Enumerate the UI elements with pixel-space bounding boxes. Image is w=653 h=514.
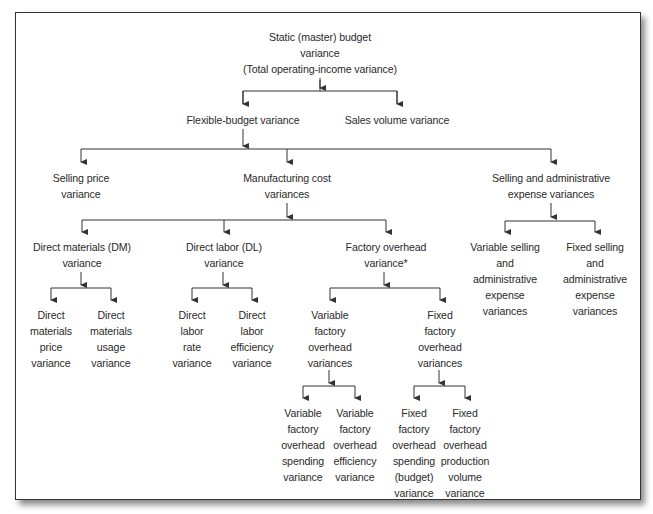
node-line: factory	[333, 421, 376, 437]
node-line: Direct materials (DM)	[33, 239, 131, 255]
node-selling-price-variance: Selling price variance	[53, 170, 109, 202]
node-line: Fixed	[418, 307, 462, 323]
node-fixed-selling-admin-variances: Fixed selling and administrative expense…	[563, 239, 627, 319]
node-line: materials	[30, 323, 72, 339]
node-line: administrative	[470, 271, 539, 287]
node-line: Direct	[30, 307, 72, 323]
node-line: Flexible-budget variance	[186, 112, 299, 128]
node-line: and	[563, 255, 627, 271]
node-line: rate	[172, 339, 211, 355]
node-line: factory	[308, 323, 352, 339]
node-line: overhead	[392, 437, 435, 453]
node-line: Fixed	[441, 405, 489, 421]
node-line: variances	[563, 303, 627, 319]
node-line: variances	[308, 355, 352, 371]
node-line: Direct labor (DL)	[186, 239, 262, 255]
node-line: expense	[470, 287, 539, 303]
node-ffoh-spending-budget-variance: Fixed factory overhead spending (budget)…	[392, 405, 435, 501]
node-vfoh-efficiency-variance: Variable factory overhead efficiency var…	[333, 405, 376, 485]
node-line: Manufacturing cost	[243, 170, 331, 186]
node-line: Variable	[308, 307, 352, 323]
node-line: variances	[470, 303, 539, 319]
node-line: materials	[90, 323, 132, 339]
node-line: expense	[563, 287, 627, 303]
node-line: Variable	[281, 405, 324, 421]
node-line: variance	[172, 355, 211, 371]
node-line: variance	[33, 255, 131, 271]
node-sales-volume-variance: Sales volume variance	[345, 112, 449, 128]
node-factory-overhead-variance: Factory overhead variance*	[346, 239, 427, 271]
node-line: variance	[392, 485, 435, 501]
node-line: (budget)	[392, 469, 435, 485]
node-line: Selling price	[53, 170, 109, 186]
node-line: price	[30, 339, 72, 355]
node-line: Fixed selling	[563, 239, 627, 255]
node-line: variances	[418, 355, 462, 371]
node-line: variance	[90, 355, 132, 371]
node-line: variance	[281, 469, 324, 485]
node-vfoh-spending-variance: Variable factory overhead spending varia…	[281, 405, 324, 485]
node-line: variance	[333, 469, 376, 485]
node-line: Static (master) budget	[243, 29, 397, 45]
node-direct-labor-variance: Direct labor (DL) variance	[186, 239, 262, 271]
node-dm-usage-variance: Direct materials usage variance	[90, 307, 132, 371]
node-line: variance	[53, 186, 109, 202]
node-line: Direct	[231, 307, 274, 323]
node-selling-admin-expense-variances: Selling and administrative expense varia…	[492, 170, 610, 202]
node-line: Fixed	[392, 405, 435, 421]
node-line: Factory overhead	[346, 239, 427, 255]
node-line: Sales volume variance	[345, 112, 449, 128]
node-line: variance	[30, 355, 72, 371]
node-line: variance	[441, 485, 489, 501]
node-manufacturing-cost-variances: Manufacturing cost variances	[243, 170, 331, 202]
node-line: expense variances	[492, 186, 610, 202]
node-line: and	[470, 255, 539, 271]
node-direct-materials-variance: Direct materials (DM) variance	[33, 239, 131, 271]
node-line: production	[441, 453, 489, 469]
node-line: spending	[281, 453, 324, 469]
node-fixed-factory-overhead-variances: Fixed factory overhead variances	[418, 307, 462, 371]
node-line: variances	[243, 186, 331, 202]
node-line: overhead	[281, 437, 324, 453]
node-line: variance	[186, 255, 262, 271]
node-line: overhead	[308, 339, 352, 355]
node-line: spending	[392, 453, 435, 469]
node-line: variance	[243, 45, 397, 61]
node-line: Variable selling	[470, 239, 539, 255]
node-line: variance*	[346, 255, 427, 271]
node-static-budget-variance: Static (master) budget variance (Total o…	[243, 29, 397, 77]
node-line: Direct	[172, 307, 211, 323]
node-line: volume	[441, 469, 489, 485]
node-dl-rate-variance: Direct labor rate variance	[172, 307, 211, 371]
node-line: factory	[392, 421, 435, 437]
node-line: Direct	[90, 307, 132, 323]
node-line: variance	[231, 355, 274, 371]
node-line: labor	[172, 323, 211, 339]
node-line: factory	[441, 421, 489, 437]
node-line: overhead	[441, 437, 489, 453]
node-line: efficiency	[333, 453, 376, 469]
node-line: (Total operating-income variance)	[243, 61, 397, 77]
node-line: factory	[281, 421, 324, 437]
node-line: administrative	[563, 271, 627, 287]
node-line: Selling and administrative	[492, 170, 610, 186]
node-line: labor	[231, 323, 274, 339]
node-variable-selling-admin-variances: Variable selling and administrative expe…	[470, 239, 539, 319]
node-line: efficiency	[231, 339, 274, 355]
node-dl-efficiency-variance: Direct labor efficiency variance	[231, 307, 274, 371]
node-line: Variable	[333, 405, 376, 421]
node-line: overhead	[418, 339, 462, 355]
node-ffoh-production-volume-variance: Fixed factory overhead production volume…	[441, 405, 489, 501]
node-flexible-budget-variance: Flexible-budget variance	[186, 112, 299, 128]
node-line: usage	[90, 339, 132, 355]
node-line: overhead	[333, 437, 376, 453]
node-line: factory	[418, 323, 462, 339]
node-dm-price-variance: Direct materials price variance	[30, 307, 72, 371]
node-variable-factory-overhead-variances: Variable factory overhead variances	[308, 307, 352, 371]
